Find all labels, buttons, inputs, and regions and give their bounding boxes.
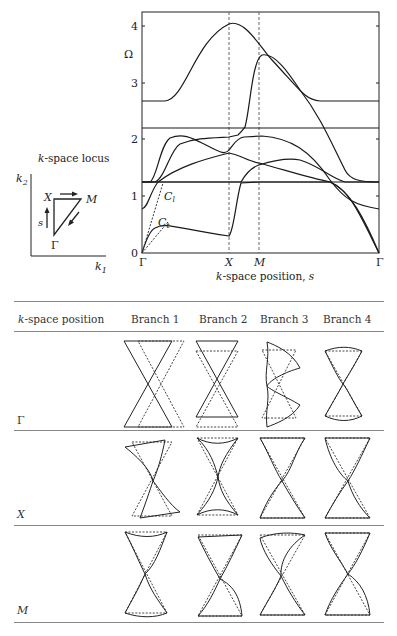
arrow-right-icon [60, 192, 78, 197]
locus-point-X: X [43, 191, 53, 204]
locus-point-M: M [85, 193, 98, 206]
k-space-locus-inset: k-space locus k2 k1 X M Γ s [16, 152, 109, 275]
mode-shape-x-branch-1 [125, 440, 180, 518]
locus-title: k-space locus [38, 152, 109, 164]
row-label-m: M [17, 604, 28, 617]
row-m-rule [14, 622, 384, 623]
row-label-gamma: Γ [17, 414, 25, 427]
y-tick-4: 4 [131, 20, 138, 33]
row-label-x: X [17, 508, 25, 521]
table-header-rule [14, 331, 384, 332]
y-tick-0: 0 [131, 247, 138, 260]
mode-shape-gamma-branch-1 [124, 341, 184, 427]
mode-shape-x-branch-4 [325, 438, 370, 518]
header-branch-4: Branch 4 [323, 313, 371, 325]
mode-shape-x-branch-3 [260, 438, 305, 518]
acoustic-transverse [142, 182, 379, 253]
locus-s-label: s [38, 217, 43, 228]
arrow-up-icon [45, 207, 50, 228]
dispersion-chart: 4 3 2 1 0 Ω Cl Ct Γ X M Γ k-space positi… [124, 12, 384, 282]
plot-frame [142, 12, 379, 253]
mode-shape-m-branch-2 [198, 535, 242, 616]
header-branch-2: Branch 2 [199, 313, 247, 325]
mode-shape-gamma-branch-2 [196, 341, 238, 427]
x-tick-M: M [253, 256, 266, 269]
mode-shape-m-branch-3 [260, 533, 305, 615]
k1-label: k1 [95, 260, 107, 275]
locus-triangle [54, 199, 81, 235]
row-gamma-rule [14, 430, 384, 431]
cl-annotation: Cl [164, 190, 175, 204]
x-tick-X: X [224, 256, 234, 269]
x-tick-gamma-end: Γ [376, 256, 384, 269]
mode-shape-x-branch-2 [197, 438, 238, 515]
ct-annotation: Ct [158, 216, 170, 230]
k2-label: k2 [16, 172, 28, 187]
header-branch-3: Branch 3 [260, 313, 308, 325]
header-branch-1: Branch 1 [131, 313, 179, 325]
y-tick-3: 3 [131, 77, 138, 90]
x-axis-label: k-space position, s [216, 270, 315, 282]
mode-shape-m-branch-1 [125, 532, 167, 617]
y-tick-2: 2 [131, 133, 138, 146]
locus-point-Gamma: Γ [51, 239, 59, 252]
x-tick-gamma-start: Γ [139, 256, 147, 269]
mode-shape-m-branch-4 [325, 533, 370, 615]
row-x-rule [14, 525, 384, 526]
mode-shape-table-drawings [124, 341, 370, 617]
mode-shape-gamma-branch-3 [262, 342, 300, 427]
header-kspace-position: k-space position [18, 313, 104, 325]
table-top-rule [14, 301, 384, 302]
y-axis-label: Ω [124, 48, 133, 61]
top-branch [142, 23, 379, 101]
y-tick-1: 1 [131, 190, 138, 203]
mode-shape-gamma-branch-4 [325, 347, 362, 420]
dispersion-curves [142, 23, 379, 253]
